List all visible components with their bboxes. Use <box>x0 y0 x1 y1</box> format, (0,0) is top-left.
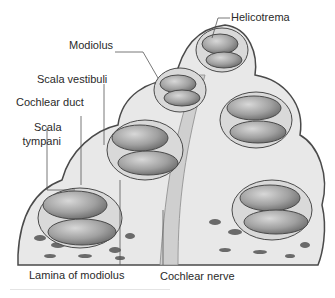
bottom-rule <box>10 289 170 290</box>
label-cochlear-duct: Cochlear duct <box>16 96 84 109</box>
cochlea-illustration <box>0 0 335 298</box>
label-cochlear-nerve: Cochlear nerve <box>160 270 235 283</box>
label-scala-vestibuli: Scala vestibuli <box>37 73 107 86</box>
label-helicotrema: Helicotrema <box>231 11 290 24</box>
label-modiolus: Modiolus <box>69 39 113 52</box>
label-scala-tympani-line2: tympani <box>21 135 61 148</box>
label-lamina-of-modiolus: Lamina of modiolus <box>29 269 124 282</box>
label-scala-tympani-line1: Scala <box>34 121 61 134</box>
